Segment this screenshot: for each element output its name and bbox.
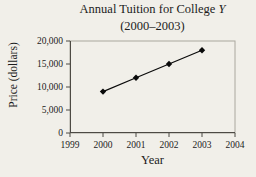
data-point-marker — [133, 75, 139, 81]
data-point-marker — [100, 88, 106, 94]
y-tick-label: 0 — [26, 128, 63, 138]
x-axis-title: Year — [70, 153, 235, 168]
x-tick-label: 2001 — [122, 140, 150, 150]
x-tick-label: 2003 — [188, 140, 216, 150]
x-tick-label: 2000 — [89, 140, 117, 150]
x-tick-label: 1999 — [56, 140, 84, 150]
data-line — [103, 50, 202, 91]
y-tick-label: 20,000 — [26, 36, 63, 46]
data-point-marker — [166, 61, 172, 67]
y-tick-label: 5,000 — [26, 105, 63, 115]
x-tick-label: 2002 — [155, 140, 183, 150]
data-point-marker — [199, 47, 205, 53]
x-tick-label: 2004 — [221, 140, 249, 150]
plot-frame — [70, 41, 235, 133]
y-tick-label: 15,000 — [26, 59, 63, 69]
y-tick-label: 10,000 — [26, 82, 63, 92]
chart: Annual Tuition for College Y (2000–2003)… — [0, 0, 256, 177]
